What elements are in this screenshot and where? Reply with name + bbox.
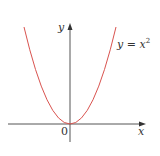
curve-label-base: y = x xyxy=(116,38,146,51)
curve-label: y = x2 xyxy=(116,37,150,51)
x-axis-label: x xyxy=(138,125,145,138)
y-axis-label: y xyxy=(57,21,65,34)
curve-label-exponent: 2 xyxy=(146,37,150,45)
origin-label: 0 xyxy=(61,125,68,138)
parabola-diagram: y x 0 y = x2 xyxy=(0,0,160,156)
y-axis-arrow-icon xyxy=(68,23,73,30)
